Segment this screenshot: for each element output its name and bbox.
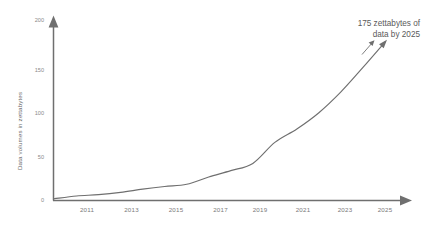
chart-background	[0, 0, 433, 229]
y-tick-label-200: 200	[35, 17, 44, 23]
annotation-line-2: data by 2025	[373, 30, 421, 39]
annotation-line-1: 175 zettabytes of	[358, 19, 421, 28]
x-tick-label-2019: 2019	[253, 206, 268, 213]
y-tick-label-150: 150	[35, 67, 44, 73]
x-tick-label-2017: 2017	[213, 206, 228, 213]
x-tick-label-2021: 2021	[296, 206, 311, 213]
data-growth-line-chart: Data volumes in zettabytes 0 50 100 150 …	[0, 0, 433, 229]
y-tick-label-0: 0	[41, 197, 44, 203]
x-tick-label-2025: 2025	[378, 206, 393, 213]
x-tick-label-2011: 2011	[80, 206, 94, 213]
x-tick-label-2023: 2023	[338, 206, 353, 213]
x-tick-label-2015: 2015	[169, 206, 184, 213]
chart-container: Data volumes in zettabytes 0 50 100 150 …	[0, 0, 433, 229]
y-axis-title: Data volumes in zettabytes	[16, 92, 23, 170]
x-tick-label-2013: 2013	[124, 206, 139, 213]
y-tick-label-100: 100	[35, 110, 44, 116]
y-tick-label-50: 50	[38, 154, 44, 160]
